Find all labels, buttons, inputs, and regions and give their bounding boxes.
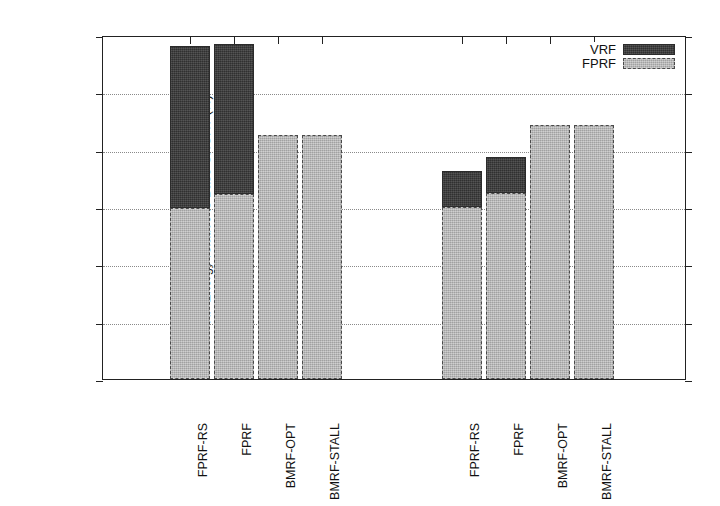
bar-segment-fprf: [486, 193, 526, 379]
x-axis-label-fprf: FPRF: [512, 423, 526, 456]
legend-swatch-fprf: [623, 58, 675, 69]
x-tick-mark: [462, 37, 463, 44]
legend-label-vrf: VRF: [590, 43, 616, 56]
bar-segment-fprf: [214, 194, 254, 379]
bar-segment-fprf: [442, 207, 482, 379]
y-tick-mark: [685, 324, 692, 325]
x-tick-mark: [322, 37, 323, 44]
bar-segment-vrf: [442, 171, 482, 207]
bar-fprf-g2: [486, 157, 526, 379]
y-tick-mark: [96, 266, 103, 267]
chart-page: RF Energy relative to Base-SHORT (%) 024…: [0, 0, 720, 506]
x-tick-mark: [506, 37, 507, 44]
x-axis-label-fprf-rs: FPRF-RS: [468, 423, 482, 477]
y-tick-mark: [96, 209, 103, 210]
x-tick-mark: [550, 37, 551, 44]
bar-bmrf-opt-g1: [258, 135, 298, 379]
x-tick-mark: [190, 37, 191, 44]
x-axis-label-bmrf-opt: BMRF-OPT: [556, 423, 570, 488]
bar-segment-fprf: [530, 125, 570, 379]
y-tick-mark: [96, 94, 103, 95]
bar-segment-fprf: [302, 135, 342, 379]
plot-area: RF Energy relative to Base-SHORT (%) 024…: [102, 36, 686, 380]
y-tick-mark: [96, 37, 103, 38]
y-tick-mark: [96, 381, 103, 382]
x-axis-label-fprf: FPRF: [240, 423, 254, 456]
legend: VRF FPRF: [580, 42, 677, 71]
x-axis-label-bmrf-opt: BMRF-OPT: [284, 423, 298, 488]
y-tick-mark: [685, 37, 692, 38]
bar-segment-fprf: [258, 135, 298, 379]
y-tick-mark: [685, 94, 692, 95]
x-axis-label-fprf-rs: FPRF-RS: [196, 423, 210, 477]
bar-segment-fprf: [170, 208, 210, 379]
y-tick-mark: [685, 266, 692, 267]
x-axis-label-bmrf-stall: BMRF-STALL: [328, 423, 342, 500]
y-tick-mark: [96, 324, 103, 325]
bar-bmrf-opt-g2: [530, 125, 570, 379]
y-tick-mark: [96, 152, 103, 153]
legend-item-fprf: FPRF: [582, 57, 675, 70]
bar-fprf-rs-g2: [442, 171, 482, 379]
legend-label-fprf: FPRF: [582, 57, 616, 70]
bar-bmrf-stall-g2: [574, 125, 614, 379]
legend-swatch-vrf: [623, 44, 675, 55]
bar-segment-vrf: [486, 157, 526, 193]
y-tick-mark: [685, 381, 692, 382]
y-tick-mark: [685, 152, 692, 153]
x-tick-mark: [278, 37, 279, 44]
bar-segment-vrf: [214, 44, 254, 195]
x-axis-label-bmrf-stall: BMRF-STALL: [600, 423, 614, 500]
legend-item-vrf: VRF: [582, 43, 675, 56]
bar-bmrf-stall-g1: [302, 135, 342, 379]
bar-segment-fprf: [574, 125, 614, 379]
bar-segment-vrf: [170, 46, 210, 208]
bar-fprf-rs-g1: [170, 46, 210, 379]
bar-fprf-g1: [214, 44, 254, 379]
y-tick-mark: [685, 209, 692, 210]
